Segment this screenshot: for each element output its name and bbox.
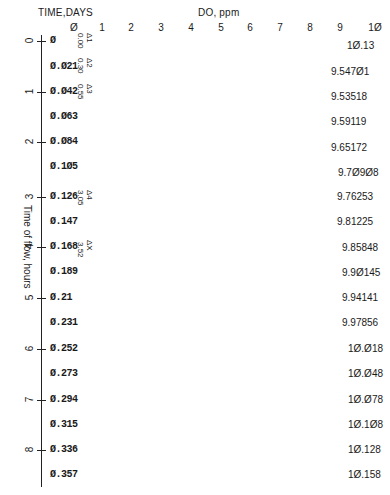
- time-value: Ø.315: [50, 419, 78, 430]
- x-tick: 5: [218, 22, 224, 33]
- annotation-value: 3.52: [76, 242, 85, 258]
- do-value: 1Ø.158: [348, 469, 381, 480]
- x-tick: 3: [158, 22, 164, 33]
- annotation-label: Δ1: [85, 33, 94, 43]
- time-value: Ø.147: [50, 216, 78, 227]
- time-value: Ø.126: [50, 191, 78, 202]
- time-value: Ø.Ø63: [50, 111, 78, 122]
- time-value: Ø.231: [50, 317, 78, 328]
- time-value: Ø.Ø21: [50, 61, 78, 72]
- annotation-label: Δ2: [85, 58, 94, 68]
- header-time-days: TIME,DAYS: [38, 7, 93, 18]
- annotation-label: ΔX: [85, 240, 94, 251]
- x-tick: Ø: [70, 22, 78, 33]
- hour-tick-mark: [37, 400, 46, 401]
- hour-tick-label: 7: [24, 395, 35, 405]
- hour-tick-label: 8: [24, 445, 35, 455]
- time-value: Ø.357: [50, 469, 78, 480]
- x-tick: 8: [307, 22, 313, 33]
- do-value: 9.9Ø145: [342, 267, 380, 278]
- x-tick: 1Ø: [368, 22, 381, 33]
- do-value: 9.81225: [337, 216, 373, 227]
- hour-tick-label: 5: [24, 293, 35, 303]
- hour-tick-mark: [37, 450, 46, 451]
- do-value: 9.547Ø1: [331, 66, 369, 77]
- hour-tick-mark: [37, 41, 46, 42]
- hour-tick-label: 3: [24, 192, 35, 202]
- time-value: Ø.Ø84: [50, 136, 78, 147]
- do-value: 9.53518: [331, 91, 367, 102]
- do-value: 9.97856: [342, 317, 378, 328]
- do-value: 9.59119: [331, 116, 366, 127]
- time-value: Ø.21: [50, 292, 72, 303]
- do-value: 9.94141: [342, 292, 378, 303]
- time-value: Ø.168: [50, 241, 78, 252]
- x-tick: 1: [99, 22, 105, 33]
- time-value: Ø.Ø42: [50, 86, 78, 97]
- x-tick: 9: [337, 22, 343, 33]
- annotation-value: 0.55: [76, 84, 85, 100]
- hour-tick-mark: [37, 247, 46, 248]
- time-value: Ø.336: [50, 444, 78, 455]
- hour-tick-label: 4: [24, 242, 35, 252]
- x-tick: 7: [277, 22, 283, 33]
- time-value: Ø.252: [50, 343, 78, 354]
- hour-tick-mark: [37, 92, 46, 93]
- hour-tick-mark: [37, 349, 46, 350]
- do-value: 1Ø.13: [347, 40, 374, 51]
- annotation-value: 0.30: [76, 58, 85, 74]
- do-value: 1Ø.128: [348, 444, 381, 455]
- do-value: 1Ø.Ø78: [348, 394, 383, 405]
- do-value: 1Ø.Ø18: [348, 343, 383, 354]
- x-tick: 6: [247, 22, 253, 33]
- header-do-ppm: DO, ppm: [198, 7, 239, 18]
- hour-tick-label: 1: [24, 87, 35, 97]
- hour-tick-mark: [37, 197, 46, 198]
- time-value: Ø.294: [50, 394, 78, 405]
- hour-tick-mark: [37, 142, 46, 143]
- time-value: Ø.1Ø5: [50, 161, 78, 172]
- time-value: Ø.189: [50, 266, 78, 277]
- time-value: Ø.273: [50, 368, 78, 379]
- time-value: Ø: [50, 35, 56, 46]
- do-value: 1Ø.Ø48: [348, 368, 383, 379]
- hour-tick-label: 6: [24, 344, 35, 354]
- do-value: 9.85848: [342, 242, 378, 253]
- do-value: 1Ø.1Ø8: [348, 419, 383, 430]
- do-value: 9.7Ø9Ø8: [338, 167, 379, 178]
- hour-tick-label: 2: [24, 137, 35, 147]
- annotation-label: Δ4: [85, 190, 94, 200]
- do-value: 9.65172: [331, 142, 367, 153]
- annotation-value: 0.00: [76, 33, 85, 49]
- annotation-value: 3.05: [76, 190, 85, 206]
- hour-tick-mark: [37, 298, 46, 299]
- x-tick: 4: [188, 22, 194, 33]
- do-value: 9.76253: [337, 191, 373, 202]
- hour-tick-label: 0: [24, 36, 35, 46]
- y-axis-line: [41, 35, 42, 487]
- annotation-label: Δ3: [85, 84, 94, 94]
- x-tick: 2: [128, 22, 134, 33]
